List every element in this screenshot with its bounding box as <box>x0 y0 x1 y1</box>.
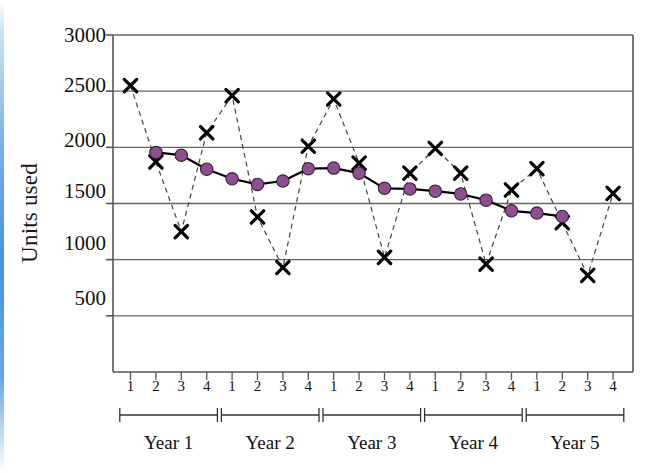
smoothed-marker <box>277 175 289 187</box>
smoothed-marker <box>302 162 314 174</box>
x-quarter-label: 4 <box>295 378 321 395</box>
x-year-label: Year 4 <box>423 432 525 454</box>
raw-marker <box>302 140 314 152</box>
smoothed-marker <box>429 185 441 197</box>
x-year-label: Year 2 <box>219 432 321 454</box>
raw-marker <box>531 162 543 174</box>
smoothed-marker <box>328 162 340 174</box>
gridlines <box>113 35 633 316</box>
x-quarter-label: 1 <box>422 378 448 395</box>
x-quarter-label: 3 <box>168 378 194 395</box>
units-used-chart: Units used 3000 2500 2000 1500 1000 500 … <box>0 0 665 473</box>
x-quarter-label: 2 <box>549 378 575 395</box>
x-quarter-label: 1 <box>219 378 245 395</box>
x-quarter-label: 2 <box>346 378 372 395</box>
smoothed-marker <box>480 194 492 206</box>
smoothed-marker <box>404 183 416 195</box>
raw-marker <box>505 184 517 196</box>
x-quarter-label: 3 <box>270 378 296 395</box>
smoothed-marker <box>455 188 467 200</box>
raw-marker <box>404 167 416 179</box>
smoothed-marker <box>505 205 517 217</box>
x-quarter-label: 1 <box>321 378 347 395</box>
raw-marker <box>251 211 263 223</box>
raw-marker <box>124 79 136 91</box>
raw-marker <box>607 187 619 199</box>
x-quarter-label: 2 <box>448 378 474 395</box>
x-quarter-label: 3 <box>473 378 499 395</box>
raw-marker <box>378 251 390 263</box>
x-quarter-label: 4 <box>600 378 626 395</box>
raw-marker <box>582 269 594 281</box>
x-quarter-label: 4 <box>499 378 525 395</box>
smoothed-marker <box>531 207 543 219</box>
x-year-label: Year 5 <box>524 432 626 454</box>
smoothed-marker <box>175 149 187 161</box>
smoothed-marker <box>226 173 238 185</box>
x-quarter-label: 2 <box>143 378 169 395</box>
raw-marker <box>328 93 340 105</box>
smoothed-marker <box>150 146 162 158</box>
raw-marker <box>277 261 289 273</box>
x-quarter-label: 4 <box>397 378 423 395</box>
smoothed-marker <box>353 167 365 179</box>
x-quarter-label: 3 <box>372 378 398 395</box>
x-quarter-label: 1 <box>118 378 144 395</box>
raw-marker <box>455 167 467 179</box>
raw-marker <box>175 225 187 237</box>
x-quarter-label: 2 <box>245 378 271 395</box>
x-quarter-label: 3 <box>575 378 601 395</box>
smoothed-marker <box>201 163 213 175</box>
x-year-label: Year 1 <box>118 432 220 454</box>
raw-marker <box>429 142 441 154</box>
raw-marker <box>201 127 213 139</box>
x-quarter-label: 1 <box>524 378 550 395</box>
smoothed-marker <box>378 182 390 194</box>
plot-area <box>0 0 665 473</box>
smoothed-marker <box>556 210 568 222</box>
smoothed-marker <box>251 178 263 190</box>
y-tick-marks <box>106 35 113 316</box>
year-group-brackets <box>120 408 624 422</box>
x-quarter-label: 4 <box>194 378 220 395</box>
x-year-label: Year 3 <box>321 432 423 454</box>
